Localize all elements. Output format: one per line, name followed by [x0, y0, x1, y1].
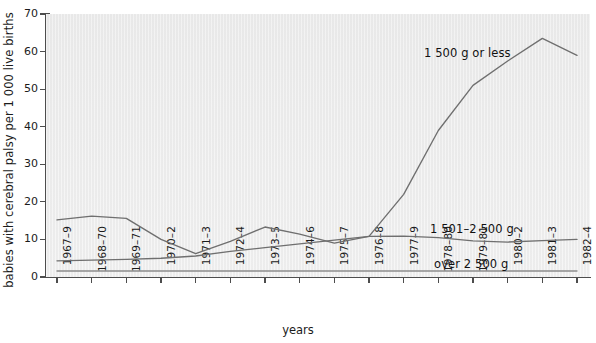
y-tick-label: 60 — [10, 46, 38, 57]
x-tick — [334, 277, 335, 283]
x-tick-label: 1968–70 — [96, 226, 108, 286]
x-tick-label: 1971–3 — [200, 226, 212, 286]
y-tick-label: 10 — [10, 233, 38, 244]
y-tick — [40, 164, 45, 165]
y-tick-label: 30 — [10, 158, 38, 169]
y-tick — [40, 51, 45, 52]
x-tick-label: 1982–4 — [581, 226, 593, 286]
x-tick — [542, 277, 543, 283]
x-tick — [472, 277, 473, 283]
x-tick — [126, 277, 127, 283]
y-tick-label: 0 — [10, 271, 38, 282]
x-tick — [264, 277, 265, 283]
y-tick-label: 70 — [10, 8, 38, 19]
x-tick — [403, 277, 404, 283]
x-tick — [576, 277, 577, 283]
y-tick-label: 40 — [10, 121, 38, 132]
x-tick — [299, 277, 300, 283]
x-tick-label: 1975–7 — [338, 226, 350, 286]
y-tick-label: 20 — [10, 196, 38, 207]
y-tick — [40, 201, 45, 202]
y-axis-line — [45, 13, 46, 278]
x-tick — [91, 277, 92, 283]
x-tick — [368, 277, 369, 283]
y-tick-label: 50 — [10, 83, 38, 94]
y-axis-top-tick — [45, 13, 50, 14]
x-tick-label: 1977–9 — [408, 226, 420, 286]
x-tick-label: 1974–6 — [304, 226, 316, 286]
x-tick — [160, 277, 161, 283]
x-tick-label: 1981–3 — [546, 226, 558, 286]
x-tick — [195, 277, 196, 283]
x-tick — [438, 277, 439, 283]
x-tick-label: 1967–9 — [61, 226, 73, 286]
x-tick — [507, 277, 508, 283]
y-tick — [40, 239, 45, 240]
series-label-1500g-or-less: 1 500 g or less — [424, 46, 511, 60]
x-tick — [56, 277, 57, 283]
y-tick — [40, 89, 45, 90]
chart-figure: babies with cerebral palsy per 1 000 liv… — [0, 0, 596, 343]
x-tick-label: 1972–4 — [234, 226, 246, 286]
x-axis-title: years — [0, 323, 596, 337]
series-label-over-2500g: over 2 500 g — [434, 257, 508, 271]
x-tick-label: 1973–5 — [269, 226, 281, 286]
y-tick — [40, 13, 45, 14]
x-tick-label: 1976–8 — [373, 226, 385, 286]
x-tick-label: 1969–71 — [130, 226, 142, 286]
y-tick — [40, 276, 45, 277]
x-tick-label: 1970–2 — [165, 226, 177, 286]
y-tick — [40, 126, 45, 127]
x-tick — [230, 277, 231, 283]
series-label-1501-2500g: 1 501–2 500 g — [430, 222, 514, 236]
